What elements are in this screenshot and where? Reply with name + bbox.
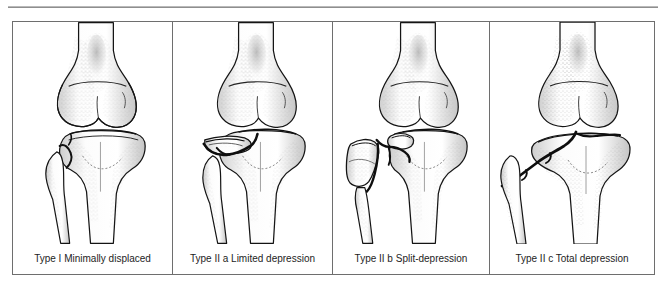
figure-table: Type I Minimally displaced: [12, 21, 655, 275]
knee-joint-illustration-icon: [173, 22, 332, 244]
panel-caption: Type II c Total depression: [490, 253, 654, 265]
header-divider-rule: [8, 6, 658, 8]
knee-joint-illustration-icon: [333, 22, 489, 244]
page-header-strip: [0, 0, 663, 5]
knee-joint-illustration-icon: [13, 22, 172, 244]
knee-joint-illustration-icon: [490, 22, 654, 244]
figure-panel-type-2b[interactable]: Type II b Split-depression: [333, 22, 490, 274]
panel-caption: Type II b Split-depression: [333, 253, 489, 265]
figure-panel-type-1[interactable]: Type I Minimally displaced: [13, 22, 173, 274]
figure-panel-type-2c[interactable]: Type II c Total depression: [490, 22, 654, 274]
figure-panel-type-2a[interactable]: Type II a Limited depression: [173, 22, 333, 274]
panel-caption: Type I Minimally displaced: [13, 253, 172, 265]
panel-caption: Type II a Limited depression: [173, 253, 332, 265]
